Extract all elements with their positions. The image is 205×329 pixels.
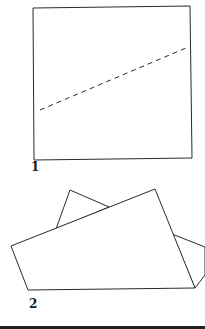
- step-2-label: 2: [29, 298, 37, 310]
- step-1-label: 1: [31, 161, 39, 173]
- dashed-fold-line: [40, 48, 186, 110]
- square-sheet: [33, 6, 192, 160]
- step-1-figure: [33, 6, 192, 160]
- step-2-figure: [11, 189, 205, 290]
